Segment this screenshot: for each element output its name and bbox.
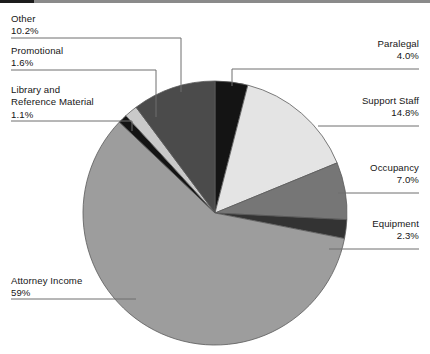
slice-label-support-staff-name: Support Staff bbox=[362, 95, 419, 107]
slice-label-equipment: Equipment 2.3% bbox=[372, 218, 419, 243]
slice-label-attorney-income-value: 59% bbox=[11, 287, 82, 299]
slice-label-library-name-line1: Library and bbox=[11, 84, 94, 96]
slice-label-promotional-name: Promotional bbox=[11, 45, 63, 57]
pie-chart-svg bbox=[0, 0, 430, 354]
slice-label-paralegal-value: 4.0% bbox=[378, 50, 419, 62]
slice-label-paralegal: Paralegal 4.0% bbox=[378, 38, 419, 63]
slice-label-library-value: 1.1% bbox=[11, 109, 94, 121]
pie-chart: Other 10.2% Promotional 1.6% Library and… bbox=[0, 0, 430, 354]
slice-label-equipment-name: Equipment bbox=[372, 218, 419, 230]
slice-label-attorney-income: Attorney Income 59% bbox=[11, 275, 82, 300]
slice-label-library-name-line2: Reference Material bbox=[11, 96, 94, 108]
slice-label-other-name: Other bbox=[11, 13, 39, 25]
slice-label-occupancy-name: Occupancy bbox=[370, 162, 419, 174]
slice-label-occupancy: Occupancy 7.0% bbox=[370, 162, 419, 187]
slice-label-other-value: 10.2% bbox=[11, 25, 39, 37]
slice-label-support-staff-value: 14.8% bbox=[362, 107, 419, 119]
slice-label-support-staff: Support Staff 14.8% bbox=[362, 95, 419, 120]
slice-label-other: Other 10.2% bbox=[11, 13, 39, 38]
slice-label-promotional-value: 1.6% bbox=[11, 57, 63, 69]
slice-label-promotional: Promotional 1.6% bbox=[11, 45, 63, 70]
slice-label-equipment-value: 2.3% bbox=[372, 230, 419, 242]
slice-label-attorney-income-name: Attorney Income bbox=[11, 275, 82, 287]
slice-label-paralegal-name: Paralegal bbox=[378, 38, 419, 50]
slice-label-library: Library and Reference Material 1.1% bbox=[11, 84, 94, 121]
leader-line-paralegal bbox=[232, 69, 419, 86]
slice-label-occupancy-value: 7.0% bbox=[370, 174, 419, 186]
